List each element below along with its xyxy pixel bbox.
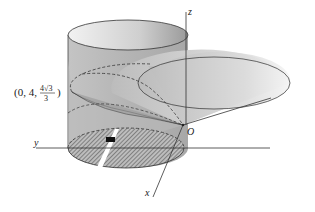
point-annotation: (0, 4, 4√3 3 )	[14, 84, 61, 103]
x-axis-label: x	[144, 187, 150, 198]
strip-highlight	[106, 137, 115, 142]
z-axis-label: z	[187, 6, 192, 17]
y-axis-label: y	[33, 137, 39, 148]
origin-label: O	[187, 126, 194, 137]
cylinder-cone-diagram: z y x O (0, 4, 4√3 3 )	[0, 0, 315, 212]
origin-dot	[182, 124, 185, 127]
point-suffix: )	[57, 86, 61, 99]
point-numerator: 4√3	[40, 84, 52, 93]
point-denominator: 3	[44, 94, 48, 103]
point-prefix: (0, 4,	[14, 86, 37, 99]
cylinder-top	[68, 20, 188, 50]
